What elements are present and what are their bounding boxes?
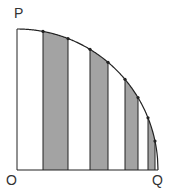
shaded-strip [125, 79, 138, 170]
shaded-strip [43, 31, 68, 170]
arc-point [136, 96, 139, 99]
arc-point [106, 61, 109, 64]
arc-point [146, 116, 149, 119]
arc-point [88, 48, 91, 51]
shaded-strip [90, 49, 108, 170]
quarter-circle-diagram [0, 0, 175, 195]
label-q: Q [152, 173, 163, 187]
arc-point [66, 37, 69, 40]
arc-point [41, 30, 44, 33]
arc-point [153, 139, 156, 142]
label-p: P [14, 6, 23, 20]
label-o: O [6, 173, 17, 187]
shaded-strip [148, 118, 155, 170]
arc-point [123, 78, 126, 81]
